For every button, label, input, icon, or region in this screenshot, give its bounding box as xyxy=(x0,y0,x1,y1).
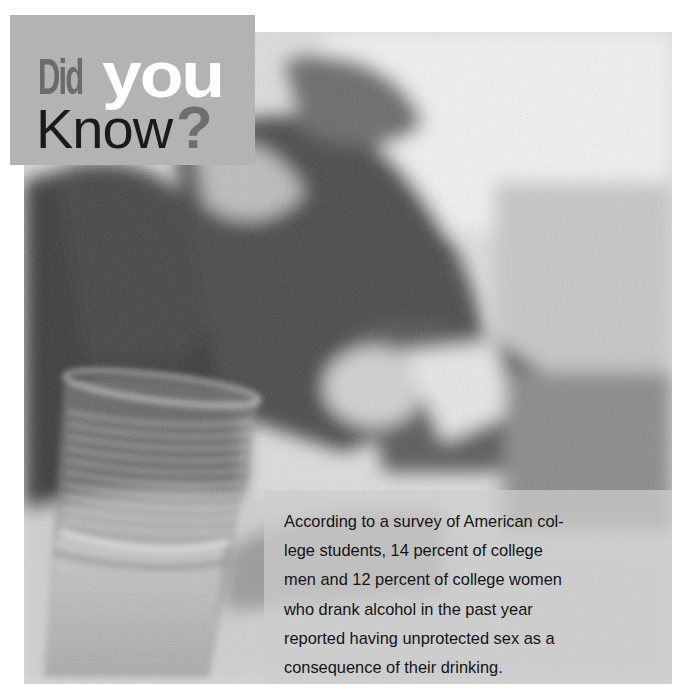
did-you-know-header: Did you Know ? xyxy=(10,15,255,165)
header-line-1: Did you xyxy=(38,45,210,101)
header-word-know: Know xyxy=(36,102,172,156)
question-mark-icon: ? xyxy=(176,101,213,155)
header-line-2: Know ? xyxy=(36,101,213,156)
fact-line: According to a survey of American col- xyxy=(284,507,654,536)
fact-text: According to a survey of American col- l… xyxy=(284,507,654,682)
fact-line: lege students, 14 percent of college xyxy=(284,536,654,565)
fact-line: reported having unprotected sex as a xyxy=(284,624,654,653)
header-word-did: Did xyxy=(38,53,74,101)
fact-line: who drank alcohol in the past year xyxy=(284,595,654,624)
fact-line: men and 12 percent of college women xyxy=(284,565,654,594)
fact-line: consequence of their drinking. xyxy=(284,653,654,682)
fact-callout: According to a survey of American col- l… xyxy=(264,490,672,684)
